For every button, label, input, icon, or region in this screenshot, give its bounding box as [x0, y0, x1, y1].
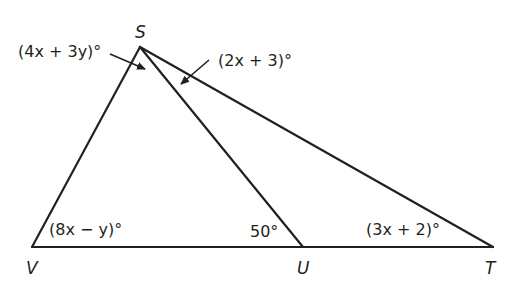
segment-st: [140, 47, 493, 247]
angle-label-suv: 50°: [250, 222, 278, 241]
vertex-label-t: T: [485, 258, 497, 278]
diagram-svg: S V U T (4x + 3y)° (2x + 3)° (8x − y)° 5…: [0, 0, 511, 290]
vertex-label-u: U: [297, 258, 310, 278]
angle-label-stu: (3x + 2)°: [366, 220, 440, 239]
angle-label-ust: (2x + 3)°: [218, 51, 292, 70]
angle-label-vsu: (4x + 3y)°: [18, 42, 101, 61]
vertex-label-s: S: [135, 22, 146, 42]
vertex-label-v: V: [26, 258, 39, 278]
arrow-angle-vsu: [110, 54, 145, 69]
angle-label-svu: (8x − y)°: [49, 220, 122, 239]
segment-su: [140, 47, 303, 247]
segment-sv: [32, 47, 140, 247]
triangle-diagram: S V U T (4x + 3y)° (2x + 3)° (8x − y)° 5…: [0, 0, 511, 290]
